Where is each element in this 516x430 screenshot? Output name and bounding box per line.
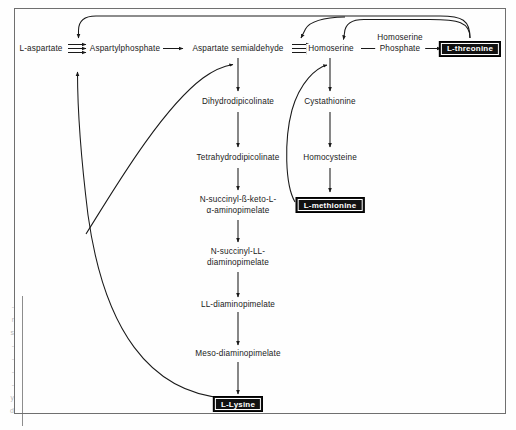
node-homoserine: Homoserine <box>306 44 356 54</box>
node-meso-diaminopimelate: Meso-diaminopimelate <box>193 349 282 359</box>
node-tetrahydrodipicolinate: Tetrahydrodipicolinate <box>195 153 282 163</box>
node-dihydrodipicolinate: Dihydrodipicolinate <box>200 97 276 107</box>
node-n-succinyl-keto-aminopimelate: N-succinyl-ß-keto-L- α-aminopimelate <box>198 195 279 216</box>
node-n-succinyl-ll-diaminopimelate: N-succinyl-LL- diaminopimelate <box>205 247 271 268</box>
figure-canvas: - r s - - - - y d <box>0 0 516 430</box>
node-line: N-succinyl-ß-keto-L- <box>200 195 277 206</box>
node-line: N-succinyl-LL- <box>207 247 269 258</box>
node-line: diaminopimelate <box>207 257 269 268</box>
node-line: Phosphate <box>377 43 423 54</box>
node-line: Homoserine <box>377 33 423 44</box>
node-homoserine-phosphate: Homoserine Phosphate <box>375 33 425 54</box>
node-cystathionine: Cystathionine <box>302 97 358 107</box>
node-ll-diaminopimelate: LL-diaminopimelate <box>199 300 277 310</box>
node-aspartate-semialdehyde: Aspartate semialdehyde <box>190 44 285 54</box>
node-aspartylphosphate: Aspartylphosphate <box>88 44 162 54</box>
node-line: α-aminopimelate <box>200 205 277 216</box>
node-l-aspartate: L-aspartate <box>17 44 64 54</box>
endproduct-l-methionine: L-methionine <box>296 197 365 213</box>
node-homocysteine: Homocysteine <box>301 153 359 163</box>
endproduct-l-threonine: L-threonine <box>439 41 501 57</box>
endproduct-l-lysine: L-Lysine <box>213 396 263 412</box>
